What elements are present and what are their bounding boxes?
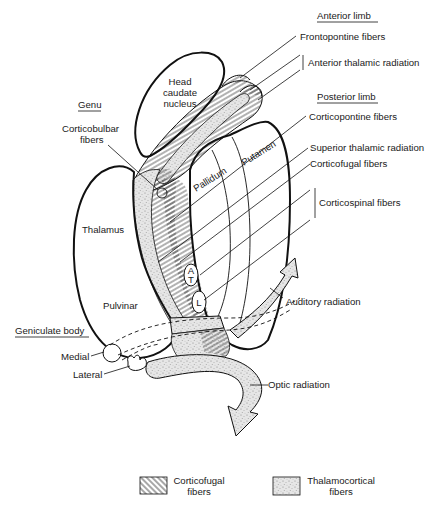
label-medial: Medial (61, 351, 89, 362)
label-nucleus: nucleus (163, 98, 196, 109)
legend-label-corticofugal-2: fibers (187, 486, 211, 497)
label-anterior-thalamic: Anterior thalamic radiation (308, 57, 419, 68)
hatched-swatch (140, 477, 167, 494)
heading-geniculate-body: Geniculate body (15, 325, 85, 336)
label-superior-thalamic: Superior thalamic radiation (310, 142, 424, 153)
legend-item-corticofugal: Corticofugal fibers (140, 475, 225, 497)
right-labels: Anterior limb Frontopontine fibers Anter… (268, 10, 424, 390)
heading-genu: Genu (78, 99, 101, 110)
legend: Corticofugal fibers Thalamocortical fibe… (140, 475, 375, 497)
marker-t: T (188, 274, 194, 285)
label-head: Head (169, 76, 192, 87)
label-corticospinal: Corticospinal fibers (319, 197, 401, 208)
label-corticobulbar-1: Corticobulbar (62, 123, 120, 134)
label-optic-radiation: Optic radiation (268, 379, 330, 390)
legend-label-thalamocortical-1: Thalamocortical (307, 475, 375, 486)
left-labels: Genu Corticobulbar fibers Geniculate bod… (15, 99, 120, 380)
label-pulvinar: Pulvinar (103, 300, 138, 311)
legend-label-corticofugal-1: Corticofugal (173, 475, 224, 486)
legend-label-thalamocortical-2: fibers (329, 486, 353, 497)
label-auditory-radiation: Auditory radiation (286, 296, 361, 307)
label-lateral: Lateral (73, 369, 102, 380)
label-corticobulbar-2: fibers (80, 134, 104, 145)
marker-l: L (196, 297, 202, 308)
sublenticular-region (170, 316, 230, 360)
label-corticofugal: Corticofugal fibers (310, 158, 388, 169)
heading-anterior-limb: Anterior limb (317, 10, 371, 21)
label-caudate: caudate (163, 87, 197, 98)
internal-capsule-diagram: Head caudate nucleus Thalamus Pulvinar P… (0, 0, 448, 508)
legend-item-thalamocortical: Thalamocortical fibers (273, 475, 375, 497)
label-frontopontine: Frontopontine fibers (300, 31, 386, 42)
heading-posterior-limb: Posterior limb (317, 91, 376, 102)
optic-radiation-arrow (146, 355, 262, 436)
label-thalamus: Thalamus (82, 224, 124, 235)
stippled-swatch (273, 477, 300, 495)
label-corticopontine: Corticopontine fibers (309, 111, 397, 122)
